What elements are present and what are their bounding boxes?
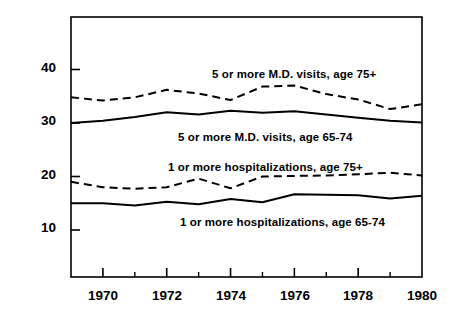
- chart-container: Percentage 40 30 20 10 1970 1972 1974 19…: [0, 0, 453, 323]
- series-line-0: [71, 86, 422, 110]
- plot-area: [0, 0, 453, 323]
- series-line-3: [71, 194, 422, 205]
- axis-frame: [71, 17, 422, 277]
- series-line-1: [71, 111, 422, 123]
- series-line-2: [71, 173, 422, 189]
- data-series-group: [71, 86, 422, 206]
